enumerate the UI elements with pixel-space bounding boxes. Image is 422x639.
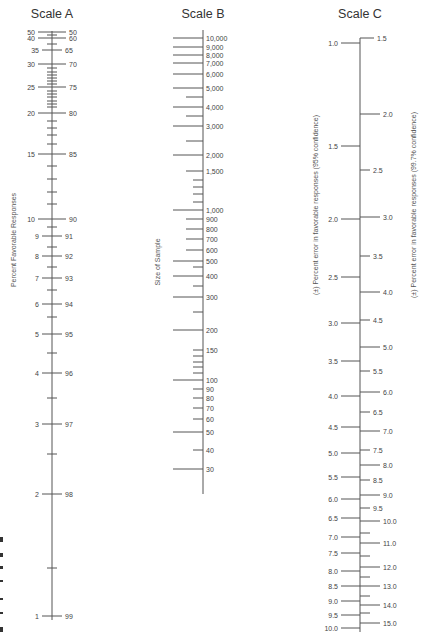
tick-label-left: 30 (27, 61, 35, 68)
tick-label-95: 7.5 (328, 550, 338, 557)
edge-mark (0, 612, 3, 614)
tick-label-left: 40 (27, 35, 35, 42)
tick-label-95: 9.5 (328, 612, 338, 619)
tick-label: 500 (206, 258, 218, 265)
tick-label-95: 6.5 (328, 515, 338, 522)
edge-mark (0, 566, 3, 569)
tick-label-99-7: 8.5 (373, 477, 383, 484)
tick-label-99-7: 8.0 (383, 462, 393, 469)
tick-label-right: 75 (69, 84, 77, 91)
scale-c-ticks: 1.01.52.02.53.03.54.04.55.05.56.06.57.07… (324, 35, 396, 632)
tick-label-left: 4 (35, 370, 39, 377)
tick-label: 3,000 (206, 123, 224, 130)
tick-label-95: 3.0 (328, 320, 338, 327)
tick-label-95: 5.0 (328, 450, 338, 457)
tick-label: 90 (206, 386, 214, 393)
tick-label-99-7: 9.0 (383, 492, 393, 499)
tick-label-99-7: 7.5 (373, 447, 383, 454)
tick-label: 100 (206, 377, 218, 384)
tick-label-left: 35 (31, 47, 39, 54)
scale-a-title: Scale A (31, 7, 74, 21)
tick-label-right: 96 (65, 370, 73, 377)
edge-mark (0, 598, 3, 600)
tick-label-left: 7 (35, 275, 39, 282)
tick-label: 600 (206, 247, 218, 254)
tick-label: 5,000 (206, 85, 224, 92)
tick-label-left: 6 (35, 301, 39, 308)
tick-label-right: 85 (69, 151, 77, 158)
tick-label: 1,000 (206, 207, 224, 214)
tick-label: 60 (206, 416, 214, 423)
tick-label-99-7: 2.5 (373, 167, 383, 174)
tick-label-99-7: 4.0 (383, 289, 393, 296)
tick-label-left: 20 (27, 110, 35, 117)
tick-label-95: 8.5 (328, 583, 338, 590)
tick-label: 6,000 (206, 71, 224, 78)
tick-label-99-7: 1.5 (377, 35, 387, 42)
tick-label: 70 (206, 405, 214, 412)
tick-label-left: 9 (35, 233, 39, 240)
tick-label-99-7: 11.0 (383, 540, 396, 547)
scale-b: Scale B Size of Sample 10,0009,0008,0007… (154, 7, 228, 494)
tick-label-99-7: 3.0 (383, 214, 393, 221)
scale-c: Scale C (±) Percent error in favorable r… (312, 7, 418, 632)
tick-label-99-7: 5.0 (383, 344, 393, 351)
tick-label-95: 6.0 (328, 496, 338, 503)
tick-label-99-7: 13.0 (383, 583, 397, 590)
scale-c-axis-title-95: (±) Percent error in favorable responses… (312, 115, 320, 295)
tick-label-95: 4.5 (328, 424, 338, 431)
tick-label-95: 1.5 (328, 143, 338, 150)
tick-label-95: 7.0 (328, 534, 338, 541)
tick-label: 1,500 (206, 168, 224, 175)
tick-label-left: 25 (27, 84, 35, 91)
tick-label-99-7: 7.0 (383, 428, 393, 435)
tick-label-95: 9.0 (328, 598, 338, 605)
tick-label-left: 2 (35, 491, 39, 498)
tick-label: 50 (206, 429, 214, 436)
tick-label: 800 (206, 226, 218, 233)
edge-mark (0, 580, 3, 582)
tick-label: 40 (206, 447, 214, 454)
scale-a: Scale A Percent Favorable Responses 5050… (10, 7, 77, 620)
tick-label-99-7: 4.5 (373, 317, 383, 324)
tick-label: 900 (206, 216, 218, 223)
tick-label-left: 1 (35, 613, 39, 620)
tick-label: 700 (206, 236, 218, 243)
tick-label-left: 3 (35, 421, 39, 428)
tick-label-left: 10 (27, 216, 35, 223)
tick-label-right: 93 (65, 275, 73, 282)
tick-label-95: 10.0 (324, 625, 338, 632)
tick-label: 10,000 (206, 35, 228, 42)
tick-label: 200 (206, 327, 218, 334)
tick-label-99-7: 15.0 (383, 620, 397, 627)
tick-label-right: 65 (65, 47, 73, 54)
tick-label-99-7: 9.5 (373, 505, 383, 512)
tick-label: 400 (206, 273, 218, 280)
tick-label-99-7: 14.0 (383, 602, 397, 609)
tick-label-right: 70 (69, 61, 77, 68)
tick-label-right: 92 (65, 253, 73, 260)
tick-label-right: 91 (65, 233, 73, 240)
scale-a-axis-title: Percent Favorable Responses (10, 192, 18, 287)
tick-label: 150 (206, 347, 218, 354)
tick-label-99-7: 6.0 (383, 389, 393, 396)
tick-label-95: 4.0 (328, 393, 338, 400)
nomogram-diagram: Scale A Percent Favorable Responses 5050… (0, 0, 422, 639)
tick-label-95: 3.5 (328, 358, 338, 365)
scale-c-axis-title-99-7: (±) Percent error in favorable responses… (410, 112, 418, 298)
tick-label-95: 1.0 (328, 40, 338, 47)
tick-label-95: 2.5 (328, 274, 338, 281)
tick-label-left: 5 (35, 331, 39, 338)
tick-label-99-7: 12.0 (383, 564, 397, 571)
tick-label-99-7: 6.5 (373, 409, 383, 416)
tick-label-99-7: 3.5 (373, 253, 383, 260)
tick-label-95: 5.5 (328, 474, 338, 481)
tick-label-right: 94 (65, 301, 73, 308)
edge-mark (0, 537, 3, 542)
tick-label: 300 (206, 294, 218, 301)
tick-label-right: 98 (65, 491, 73, 498)
tick-label-right: 99 (65, 613, 73, 620)
tick-label: 30 (206, 466, 214, 473)
scale-b-ticks: 10,0009,0008,0007,0006,0005,0004,0003,00… (173, 35, 228, 473)
tick-label: 7,000 (206, 60, 224, 67)
